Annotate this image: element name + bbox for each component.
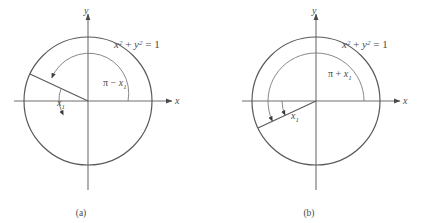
- figure-canvas: x2 + y2 = 1 π − x1 x1 x y (a) x2 +: [0, 0, 428, 223]
- caption-a: (a): [76, 208, 87, 219]
- panel-a: x2 + y2 = 1 π − x1 x1 x y (a): [14, 5, 180, 219]
- y-axis-label-b: y: [311, 5, 317, 16]
- terminal-ray-b: [258, 101, 316, 128]
- x-axis-label-a: x: [174, 95, 180, 106]
- caption-b: (b): [303, 208, 314, 219]
- panel-b: x2 + y2 = 1 π + x1 x1 x y (b): [242, 5, 408, 219]
- arc-x1-b: [282, 101, 285, 115]
- equation-label-b: x2 + y2 = 1: [341, 38, 388, 50]
- label-x1-b: x1: [290, 110, 299, 124]
- y-axis-label-a: y: [83, 5, 89, 16]
- equation-label-a: x2 + y2 = 1: [113, 38, 160, 50]
- x-axis-label-b: x: [402, 95, 408, 106]
- unit-circle-figure-pair: x2 + y2 = 1 π − x1 x1 x y (a) x2 +: [0, 0, 428, 223]
- label-pi-plus-x1-b: π + x1: [328, 68, 352, 82]
- label-x1-a: x1: [56, 97, 65, 111]
- label-pi-minus-x1-a: π − x1: [103, 77, 127, 91]
